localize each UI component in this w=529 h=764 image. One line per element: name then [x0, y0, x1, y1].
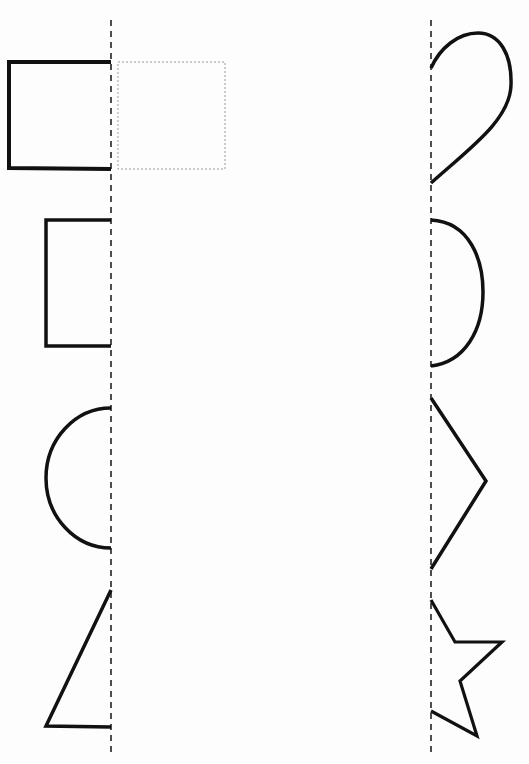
triangle-half-shape [46, 590, 111, 727]
star-half-shape [431, 600, 502, 736]
square-half-shape [9, 62, 111, 169]
chevron-half-shape [431, 398, 486, 569]
left-semicircle-half-shape [46, 408, 111, 548]
right-semicircle-half-shape [431, 220, 483, 366]
worksheet-canvas [0, 0, 529, 764]
drop-half-shape [431, 33, 511, 183]
square-hint-outline [118, 62, 225, 169]
symmetry-worksheet [0, 0, 529, 764]
rectangle-half-shape [46, 220, 111, 346]
